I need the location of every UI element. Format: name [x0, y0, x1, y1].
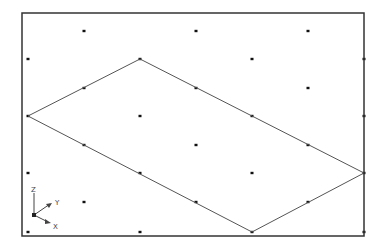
grid-dot	[27, 231, 30, 233]
grid-dot	[83, 201, 86, 203]
grid-dot	[195, 30, 198, 32]
y-axis-label: Y	[54, 199, 60, 207]
grid-dot	[27, 172, 30, 174]
x-axis-label: X	[53, 223, 58, 231]
z-axis-label: Z	[31, 186, 36, 194]
viewport-frame	[22, 13, 364, 236]
y-axis-arrow-icon	[46, 203, 52, 208]
drawing-viewport[interactable]: Z Y X	[0, 0, 382, 250]
grid-dot	[195, 144, 198, 146]
grid-dot	[251, 172, 254, 174]
grid-dot	[307, 87, 310, 89]
x-axis-arrow-icon	[45, 219, 51, 224]
ucs-origin-icon	[32, 213, 36, 217]
ucs-axis-icon: Z Y X	[31, 186, 60, 231]
grid-dot	[139, 115, 142, 117]
grid-dot	[307, 30, 310, 32]
grid-dot	[251, 58, 254, 60]
drawing-canvas[interactable]: Z Y X	[0, 0, 382, 250]
grid-dot	[27, 58, 30, 60]
grid-dot	[139, 231, 142, 233]
grid-dot	[83, 30, 86, 32]
